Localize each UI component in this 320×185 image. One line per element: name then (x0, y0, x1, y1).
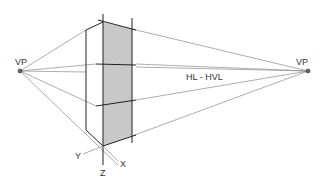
axis-z-label: Z (100, 169, 106, 178)
right-vp-construction-lines (132, 29, 308, 136)
vp-left-label: VP (15, 58, 27, 67)
vp-right-marker (306, 69, 310, 73)
vp-right-label: VP (296, 58, 308, 67)
horizon-label: HL - HVL (186, 73, 223, 82)
axis-y-label: Y (75, 152, 81, 161)
axis-x-label: X (120, 160, 126, 169)
perspective-diagram (0, 0, 320, 185)
vp-left-marker (18, 69, 22, 73)
shaded-panel (103, 22, 132, 146)
